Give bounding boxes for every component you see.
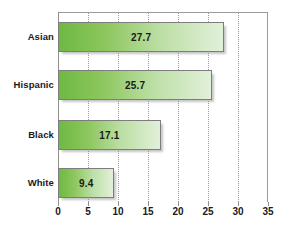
category-label-hispanic: Hispanic	[14, 79, 54, 90]
plot-top-border	[58, 12, 268, 13]
x-tick-label-5: 5	[85, 206, 91, 217]
bar-value-label: 27.7	[131, 32, 151, 43]
bar-value-label: 17.1	[99, 130, 119, 141]
x-tick-label-20: 20	[172, 206, 183, 217]
category-label-black: Black	[28, 129, 54, 140]
x-tick-label-15: 15	[142, 206, 153, 217]
plot-area: 27.725.717.19.4	[58, 12, 268, 202]
x-tick-label-0: 0	[55, 206, 61, 217]
x-tick-label-10: 10	[112, 206, 123, 217]
plot-right-border	[267, 12, 268, 202]
bar-row: 27.7	[58, 22, 224, 52]
gridline-30	[238, 12, 239, 202]
bar-value-label: 25.7	[125, 80, 145, 91]
category-label-white: White	[28, 177, 54, 188]
category-label-asian: Asian	[28, 31, 54, 42]
bar-value-label: 9.4	[79, 178, 94, 189]
x-tick-label-30: 30	[232, 206, 243, 217]
bar-row: 25.7	[58, 70, 212, 100]
x-tick-label-25: 25	[202, 206, 213, 217]
bar-chart: 27.725.717.19.4 AsianHispanicBlackWhite …	[0, 0, 288, 225]
bar-row: 9.4	[58, 168, 114, 198]
x-tick-label-35: 35	[262, 206, 273, 217]
bar-row: 17.1	[58, 120, 161, 150]
